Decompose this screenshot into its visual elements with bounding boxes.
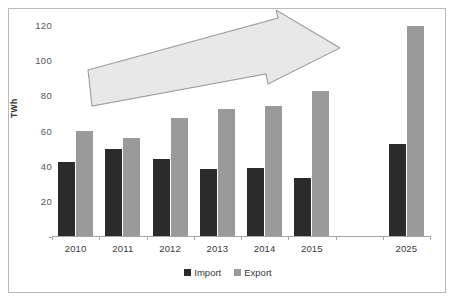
bar-import-2011 (105, 149, 122, 236)
x-axis-tickmark (241, 236, 242, 240)
chart-legend: ImportExport (0, 267, 456, 278)
y-axis-tick-labels: -20406080100120 (0, 0, 52, 303)
y-axis-tick-label: - (10, 231, 52, 242)
y-axis-tick-label: 100 (10, 55, 52, 66)
bar-import-2025 (389, 144, 406, 236)
chart-plot-area: TWh -20406080100120 20102011201220132014… (0, 0, 456, 303)
y-axis-tick-label: 20 (10, 195, 52, 206)
x-axis-label-2010: 2010 (65, 243, 87, 254)
bar-export-2011 (123, 138, 140, 236)
y-axis-tick-label: 80 (10, 90, 52, 101)
x-axis-label-2025: 2025 (395, 243, 417, 254)
x-axis-tickmark (194, 236, 195, 240)
x-axis-label-2012: 2012 (159, 243, 181, 254)
x-axis-tickmark (430, 236, 431, 240)
x-axis-label-2015: 2015 (301, 243, 323, 254)
y-axis-tick-label: 60 (10, 125, 52, 136)
bar-export-2015 (312, 91, 329, 236)
bar-export-2012 (171, 118, 188, 236)
legend-swatch-icon (234, 269, 241, 276)
bars-layer (52, 25, 430, 236)
bar-export-2025 (407, 26, 424, 236)
legend-label: Export (244, 267, 271, 278)
bar-import-2010 (58, 162, 75, 236)
legend-item-export[interactable]: Export (234, 267, 271, 278)
x-axis-tickmark (336, 236, 337, 240)
x-axis-tickmark (52, 236, 53, 240)
x-axis-tickmark (147, 236, 148, 240)
x-axis-label-2014: 2014 (254, 243, 276, 254)
x-axis-label-2011: 2011 (112, 243, 133, 254)
bar-export-2010 (76, 131, 93, 237)
legend-item-import[interactable]: Import (184, 267, 221, 278)
legend-swatch-icon (184, 269, 191, 276)
legend-label: Import (194, 267, 221, 278)
bar-export-2013 (218, 109, 235, 236)
y-axis-tick-label: 40 (10, 160, 52, 171)
bar-import-2013 (200, 169, 217, 236)
x-axis-label-2013: 2013 (206, 243, 228, 254)
x-axis-tickmark (288, 236, 289, 240)
bar-import-2014 (247, 168, 264, 236)
y-axis-tick-label: 120 (10, 20, 52, 31)
x-axis-tickmark (99, 236, 100, 240)
x-axis-tickmark (383, 236, 384, 240)
bar-import-2015 (294, 178, 311, 236)
bar-export-2014 (265, 106, 282, 236)
bar-import-2012 (153, 159, 170, 236)
